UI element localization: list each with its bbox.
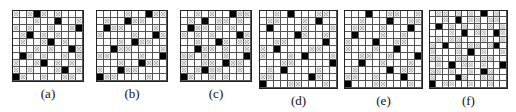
crossed-cell-icon	[330, 53, 337, 60]
crossed-cell-icon	[76, 46, 83, 53]
empty-cell	[244, 74, 251, 81]
crossed-cell-icon	[352, 74, 359, 81]
crossed-cell-icon	[125, 11, 132, 18]
empty-cell	[125, 60, 132, 67]
crossed-cell-icon	[352, 67, 359, 74]
empty-cell	[244, 25, 251, 32]
empty-cell	[309, 53, 316, 60]
empty-cell	[345, 25, 352, 32]
blocked-cell	[415, 53, 422, 60]
empty-cell	[34, 39, 41, 46]
empty-cell	[139, 74, 146, 81]
empty-cell	[104, 39, 111, 46]
empty-cell	[146, 53, 153, 60]
crossed-cell-icon	[153, 60, 160, 67]
empty-cell	[230, 18, 237, 25]
empty-cell	[309, 39, 316, 46]
empty-cell	[415, 81, 422, 88]
empty-cell	[69, 53, 76, 60]
empty-cell	[309, 67, 316, 74]
empty-cell	[111, 39, 118, 46]
empty-cell	[118, 74, 125, 81]
grid-panel: (a)	[12, 10, 84, 110]
empty-cell	[394, 25, 401, 32]
empty-cell	[209, 18, 216, 25]
crossed-cell-icon	[195, 32, 202, 39]
empty-cell	[237, 25, 244, 32]
empty-cell	[132, 46, 139, 53]
empty-cell	[394, 53, 401, 60]
empty-cell	[345, 11, 352, 18]
empty-cell	[139, 67, 146, 74]
blocked-cell	[274, 46, 281, 53]
empty-cell	[408, 32, 415, 39]
blocked-cell	[387, 67, 394, 74]
empty-cell	[118, 18, 125, 25]
blocked-cell	[97, 74, 104, 81]
empty-cell	[13, 39, 20, 46]
crossed-cell-icon	[352, 25, 359, 32]
empty-cell	[408, 39, 415, 46]
crossed-cell-icon	[146, 39, 153, 46]
empty-cell	[295, 11, 302, 18]
empty-cell	[48, 11, 55, 18]
empty-cell	[288, 74, 295, 81]
empty-cell	[295, 53, 302, 60]
empty-cell	[230, 32, 237, 39]
crossed-cell-icon	[104, 18, 111, 25]
empty-cell	[281, 53, 288, 60]
empty-cell	[20, 67, 27, 74]
blocked-cell	[27, 32, 34, 39]
crossed-cell-icon	[195, 25, 202, 32]
empty-cell	[118, 11, 125, 18]
empty-cell	[209, 25, 216, 32]
empty-cell	[104, 67, 111, 74]
crossed-cell-icon	[41, 74, 48, 81]
crossed-cell-icon	[274, 39, 281, 46]
empty-cell	[366, 18, 373, 25]
empty-cell	[125, 74, 132, 81]
panel-label: (c)	[180, 86, 252, 102]
empty-cell	[62, 32, 69, 39]
empty-cell	[295, 60, 302, 67]
empty-cell	[139, 11, 146, 18]
empty-cell	[415, 39, 422, 46]
empty-cell	[34, 53, 41, 60]
empty-cell	[401, 25, 408, 32]
empty-cell	[188, 67, 195, 74]
empty-cell	[139, 25, 146, 32]
crossed-cell-icon	[188, 74, 195, 81]
crossed-cell-icon	[244, 11, 251, 18]
empty-cell	[267, 32, 274, 39]
empty-cell	[401, 11, 408, 18]
crossed-cell-icon	[13, 67, 20, 74]
empty-cell	[380, 11, 387, 18]
empty-cell	[216, 32, 223, 39]
empty-cell	[267, 60, 274, 67]
empty-cell	[111, 60, 118, 67]
empty-cell	[373, 25, 380, 32]
empty-cell	[302, 39, 309, 46]
crossed-cell-icon	[118, 46, 125, 53]
empty-cell	[394, 18, 401, 25]
empty-cell	[160, 39, 167, 46]
empty-cell	[153, 74, 160, 81]
blocked-cell	[359, 60, 366, 67]
crossed-cell-icon	[209, 67, 216, 74]
empty-cell	[359, 11, 366, 18]
crossed-cell-icon	[97, 32, 104, 39]
grid-panel: (d)	[259, 10, 338, 110]
empty-cell	[373, 32, 380, 39]
crossed-cell-icon	[55, 60, 62, 67]
empty-cell	[352, 81, 359, 88]
crossed-cell-icon	[209, 74, 216, 81]
empty-cell	[55, 46, 62, 53]
blocked-cell	[132, 39, 139, 46]
empty-cell	[408, 53, 415, 60]
crossed-cell-icon	[316, 46, 323, 53]
empty-cell	[316, 32, 323, 39]
empty-cell	[387, 46, 394, 53]
crossed-cell-icon	[27, 67, 34, 74]
crossed-cell-icon	[27, 25, 34, 32]
empty-cell	[97, 60, 104, 67]
